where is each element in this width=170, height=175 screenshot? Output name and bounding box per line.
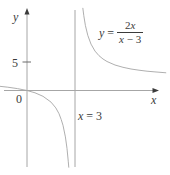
asymptote-label-rest: = 3 xyxy=(83,109,102,123)
asymptote-label: x = 3 xyxy=(78,110,102,122)
origin-label: 0 xyxy=(16,93,22,105)
equation-fraction: 2x x − 3 xyxy=(117,20,143,45)
fraction-denominator: x − 3 xyxy=(117,34,143,45)
y-axis-arrow-icon xyxy=(25,8,30,15)
y-tick-label-5: 5 xyxy=(12,57,18,69)
equation-label: y = 2x x − 3 xyxy=(99,20,143,45)
plot-canvas xyxy=(0,0,170,175)
curve-left-branch xyxy=(0,86,69,167)
y-axis-label: y xyxy=(13,11,18,23)
x-axis-label: x xyxy=(151,94,156,106)
equation-lhs: y xyxy=(99,27,104,39)
function-graph: y x 5 0 x = 3 y = 2x x − 3 xyxy=(0,0,170,175)
equation-equals: = xyxy=(107,27,114,39)
fraction-numerator: 2x xyxy=(123,20,137,31)
